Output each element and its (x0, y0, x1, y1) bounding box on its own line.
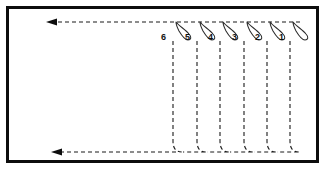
hook-2-dashed-stem (254, 41, 277, 152)
top-flow-arrowhead-left (46, 18, 57, 25)
bottom-dashed-flow-line (51, 148, 176, 155)
hook-4-dashed-stem (207, 41, 230, 152)
diagram-vector-layer (0, 0, 329, 177)
hook-1-dashed-stem (277, 41, 300, 152)
hook-1-loop (293, 22, 308, 40)
top-dashed-flow-line (46, 18, 300, 25)
hook-label-2: 2 (255, 33, 260, 42)
hook-label-4: 4 (208, 33, 213, 42)
hook-label-6: 6 (161, 33, 166, 42)
bottom-flow-arrowhead-left (51, 148, 62, 155)
hook-6-dashed-stem (173, 41, 183, 152)
hook-label-3: 3 (232, 33, 237, 42)
hook-label-5: 5 (185, 33, 190, 42)
hook-5-dashed-stem (183, 41, 207, 152)
figure-canvas: 6 5 4 3 2 1 (0, 0, 329, 177)
hook-3-dashed-stem (230, 41, 254, 152)
hook-label-1: 1 (279, 33, 284, 42)
